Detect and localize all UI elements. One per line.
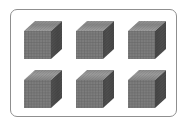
thousand-cube bbox=[24, 21, 62, 59]
thousand-cube bbox=[76, 70, 114, 108]
cube-front-face bbox=[128, 80, 155, 108]
cube-front-face bbox=[128, 31, 155, 59]
cubes-figure bbox=[0, 0, 186, 122]
thousand-cube bbox=[76, 21, 114, 59]
thousand-cube bbox=[128, 21, 166, 59]
cube-front-face bbox=[76, 31, 103, 59]
cube-front-face bbox=[24, 31, 51, 59]
thousand-cube bbox=[24, 70, 62, 108]
cube-front-face bbox=[24, 80, 51, 108]
thousand-cube bbox=[128, 70, 166, 108]
cube-front-face bbox=[76, 80, 103, 108]
